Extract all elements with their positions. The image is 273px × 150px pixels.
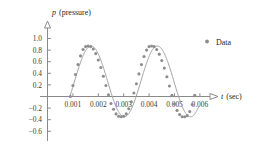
y-tick-label: 0.2 [33,81,43,90]
data-point [130,100,133,103]
y-axis-arrowhead [45,21,51,28]
data-point [142,55,145,58]
data-point [193,94,196,97]
legend: Data [205,38,231,47]
y-tick-label: 0.4 [33,69,43,78]
y-axis-unit: (pressure) [59,8,91,17]
data-point [168,85,171,88]
data-point [89,45,92,48]
y-axis-title: p(pressure) [51,8,91,17]
data-point [191,103,194,106]
data-point [155,48,158,51]
data-point [82,48,85,51]
data-point [107,93,110,96]
data-point [127,107,130,110]
y-tick-label: −0.6 [29,127,43,136]
data-point [140,63,143,66]
chart-canvas: 0.0010.0020.0030.0040.0050.006 1.00.80.6… [0,0,273,150]
data-point [74,73,77,76]
data-point [145,49,148,52]
data-point [112,108,115,111]
pressure-vs-time-chart: 0.0010.0020.0030.0040.0050.006 1.00.80.6… [0,0,273,150]
data-point [125,112,128,115]
data-point [102,75,105,78]
y-tick-label: −0.4 [29,115,43,124]
data-point [69,95,72,98]
data-point [175,109,178,112]
data-point [178,113,181,116]
y-tick-label: −0.2 [29,104,43,113]
x-axis-title: t(sec) [221,92,242,101]
data-point [94,52,97,55]
data-point [132,91,135,94]
data-point [135,82,138,85]
data-point [92,47,95,50]
x-tick-label: 0.001 [65,100,82,109]
x-axis-tick-labels: 0.0010.0020.0030.0040.0050.006 [65,100,209,109]
x-axis-unit: (sec) [226,92,242,101]
data-point [186,114,189,117]
data-point [158,53,161,56]
legend-marker-icon [205,40,209,44]
data-point [97,58,100,61]
data-point [76,63,79,66]
data-point [104,84,107,87]
x-axis-arrowhead [210,94,218,100]
y-axis-symbol: p [51,8,56,17]
x-axis-title-text: t(sec) [221,92,242,101]
data-point [160,59,163,62]
y-axis-title-text: p(pressure) [51,8,91,17]
y-axis-ticks [48,39,51,132]
data-point [153,45,156,48]
x-axis-symbol: t [221,92,224,101]
data-point [122,115,125,118]
y-tick-label: 1.0 [33,34,43,43]
y-tick-label: 0.8 [33,46,43,55]
data-point [99,66,102,69]
y-axis-tick-labels: 1.00.80.60.40.2−0.2−0.4−0.6 [29,34,43,136]
data-point [109,102,112,105]
data-point [170,94,173,97]
x-tick-label: 0.002 [90,100,107,109]
y-tick-label: 0.6 [33,57,43,66]
data-point [137,72,140,75]
data-point [163,67,166,70]
data-point [79,54,82,57]
data-point [188,110,191,113]
x-tick-label: 0.004 [141,100,158,109]
data-point [165,75,168,78]
data-point [71,84,74,87]
data-point [115,112,118,115]
axes-group [40,21,218,141]
data-point [173,102,176,105]
x-tick-label: 0.006 [192,100,209,109]
legend-label-data: Data [216,38,232,47]
